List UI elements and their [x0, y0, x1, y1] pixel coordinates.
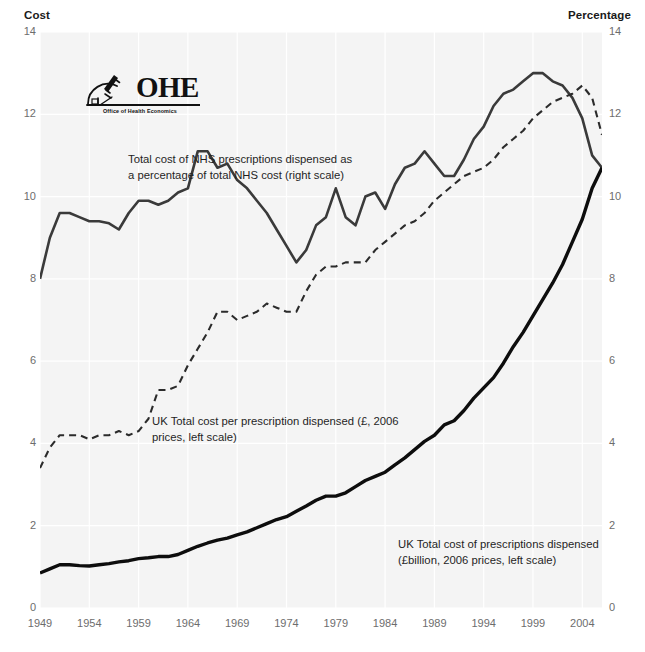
y-axis-tick-left: 8 — [30, 273, 36, 284]
logo-subtitle: Office of Health Economics — [103, 108, 177, 114]
x-axis-tick: 1969 — [225, 618, 249, 629]
x-axis-tick: 1974 — [274, 618, 298, 629]
y-axis-tick-right: 6 — [609, 355, 615, 366]
y-axis-tick-right: 12 — [609, 108, 621, 119]
right-axis-title: Percentage — [568, 9, 631, 21]
x-axis-tick: 1979 — [324, 618, 348, 629]
y-axis-tick-right: 4 — [609, 437, 615, 448]
logo-underline — [102, 104, 200, 106]
series-line-2 — [40, 168, 602, 573]
ohe-logo: OHE Office of Health Economics — [84, 74, 202, 118]
chart-page: Cost Percentage OHE — [0, 0, 645, 652]
x-axis-tick: 1989 — [422, 618, 446, 629]
x-axis-tick: 1999 — [521, 618, 545, 629]
y-axis-tick-left: 0 — [30, 602, 36, 613]
series-lines — [40, 73, 602, 573]
chart-canvas — [40, 32, 602, 608]
y-axis-tick-left: 12 — [24, 108, 36, 119]
left-axis-title: Cost — [24, 9, 50, 21]
y-axis-tick-left: 14 — [24, 26, 36, 37]
x-axis-tick: 1954 — [77, 618, 101, 629]
x-axis-tick: 2004 — [570, 618, 594, 629]
annotation-percentage-series: Total cost of NHS prescriptions dispense… — [128, 151, 352, 184]
y-axis-tick-left: 4 — [30, 437, 36, 448]
x-axis-tick: 1959 — [126, 618, 150, 629]
y-axis-tick-right: 14 — [609, 26, 621, 37]
y-axis-tick-left: 10 — [24, 191, 36, 202]
y-axis-tick-left: 2 — [30, 520, 36, 531]
y-axis-tick-right: 2 — [609, 520, 615, 531]
x-axis-tick: 1964 — [176, 618, 200, 629]
annotation-total-cost-series: UK Total cost of prescriptions dispensed… — [398, 536, 599, 569]
annotation-cost-per-prescription-series: UK Total cost per prescription dispensed… — [152, 413, 399, 446]
gridlines — [40, 32, 602, 608]
logo-wordmark: OHE — [136, 73, 199, 102]
y-axis-tick-right: 10 — [609, 191, 621, 202]
y-axis-tick-right: 8 — [609, 273, 615, 284]
x-axis-tick: 1949 — [28, 618, 52, 629]
x-axis-tick: 1994 — [471, 618, 495, 629]
series-line-1 — [40, 85, 602, 468]
y-axis-tick-right: 0 — [609, 602, 615, 613]
plot-area: OHE Office of Health Economics Total cos… — [40, 32, 602, 608]
y-axis-tick-left: 6 — [30, 355, 36, 366]
x-axis-tick: 1984 — [373, 618, 397, 629]
